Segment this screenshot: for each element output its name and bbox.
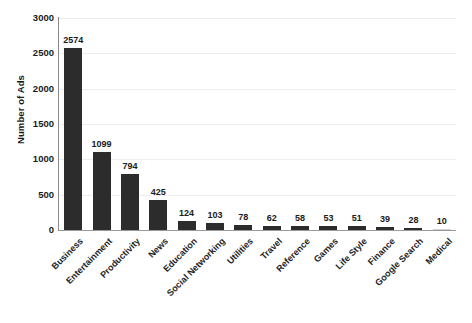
bar[interactable] — [291, 226, 309, 230]
bar-value-label: 53 — [323, 214, 333, 223]
bar-slot[interactable]: 62 — [263, 18, 281, 230]
bar[interactable] — [93, 152, 111, 230]
y-axis-tick-label: 2500 — [8, 48, 54, 58]
bar-slot[interactable]: 78 — [234, 18, 252, 230]
bar[interactable] — [404, 228, 422, 230]
bar-value-label: 58 — [295, 214, 305, 223]
bar-chart: Number of Ads 300025002000150010005000 2… — [0, 0, 472, 323]
bar-value-label: 124 — [179, 209, 194, 218]
bar-slot[interactable]: 124 — [178, 18, 196, 230]
bars-layer: 257410997944251241037862585351392810 — [59, 18, 456, 230]
bar-slot[interactable]: 794 — [121, 18, 139, 230]
bar-value-label: 10 — [437, 217, 447, 226]
bar[interactable] — [149, 200, 167, 230]
bar-value-label: 2574 — [63, 36, 83, 45]
y-axis-tick-label: 500 — [8, 190, 54, 200]
y-axis-tick-labels: 300025002000150010005000 — [4, 18, 54, 230]
bar-value-label: 103 — [207, 211, 222, 220]
bar-value-label: 28 — [408, 216, 418, 225]
bar[interactable] — [64, 48, 82, 230]
bar-slot[interactable]: 2574 — [64, 18, 82, 230]
y-axis-tick-label: 1000 — [8, 154, 54, 164]
y-axis-tick-label: 0 — [8, 225, 54, 235]
bar-value-label: 425 — [151, 188, 166, 197]
bar-slot[interactable]: 103 — [206, 18, 224, 230]
bar[interactable] — [433, 229, 451, 230]
y-axis-tick-label: 1500 — [8, 119, 54, 129]
x-axis-category-labels: BusinessEntertainmentProductivityNewsEdu… — [59, 232, 456, 323]
bar-value-label: 62 — [267, 214, 277, 223]
y-axis-tick-label: 2000 — [8, 84, 54, 94]
bar[interactable] — [178, 221, 196, 230]
bar-slot[interactable]: 28 — [404, 18, 422, 230]
bar-slot[interactable]: 425 — [149, 18, 167, 230]
bar[interactable] — [263, 226, 281, 230]
bar[interactable] — [234, 225, 252, 231]
bar[interactable] — [348, 226, 366, 230]
bar-value-label: 78 — [238, 213, 248, 222]
bar-value-label: 794 — [122, 162, 137, 171]
bar-value-label: 39 — [380, 215, 390, 224]
bar-slot[interactable]: 39 — [376, 18, 394, 230]
x-axis-baseline — [59, 230, 456, 231]
bar-value-label: 1099 — [92, 140, 112, 149]
bar-slot[interactable]: 51 — [348, 18, 366, 230]
bar-slot[interactable]: 53 — [319, 18, 337, 230]
bar[interactable] — [121, 174, 139, 230]
bar-value-label: 51 — [352, 214, 362, 223]
bar[interactable] — [206, 223, 224, 230]
bar[interactable] — [319, 226, 337, 230]
y-axis-tick-label: 3000 — [8, 13, 54, 23]
bar-slot[interactable]: 58 — [291, 18, 309, 230]
bar-slot[interactable]: 1099 — [93, 18, 111, 230]
bar-slot[interactable]: 10 — [433, 18, 451, 230]
bar[interactable] — [376, 227, 394, 230]
